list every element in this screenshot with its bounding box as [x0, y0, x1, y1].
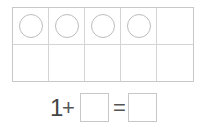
equation: 1 + = [0, 92, 207, 124]
counter-circle [91, 14, 115, 38]
plus-sign: + [62, 95, 75, 121]
sum-answer-box[interactable] [128, 93, 157, 122]
counter-circle [127, 14, 151, 38]
addend-2-answer-box[interactable] [80, 93, 109, 122]
frame-cell [49, 8, 85, 45]
frame-cell [85, 8, 121, 45]
frame-cell [13, 8, 49, 45]
counter-circle [19, 14, 43, 38]
frame-cell [121, 45, 157, 82]
frame-cell [157, 45, 193, 82]
equals-sign: = [113, 95, 126, 121]
frame-cell [157, 8, 193, 45]
ten-frame [12, 7, 194, 82]
frame-cell [85, 45, 121, 82]
counter-circle [55, 14, 79, 38]
frame-cell [121, 8, 157, 45]
frame-cell [13, 45, 49, 82]
frame-cell [49, 45, 85, 82]
